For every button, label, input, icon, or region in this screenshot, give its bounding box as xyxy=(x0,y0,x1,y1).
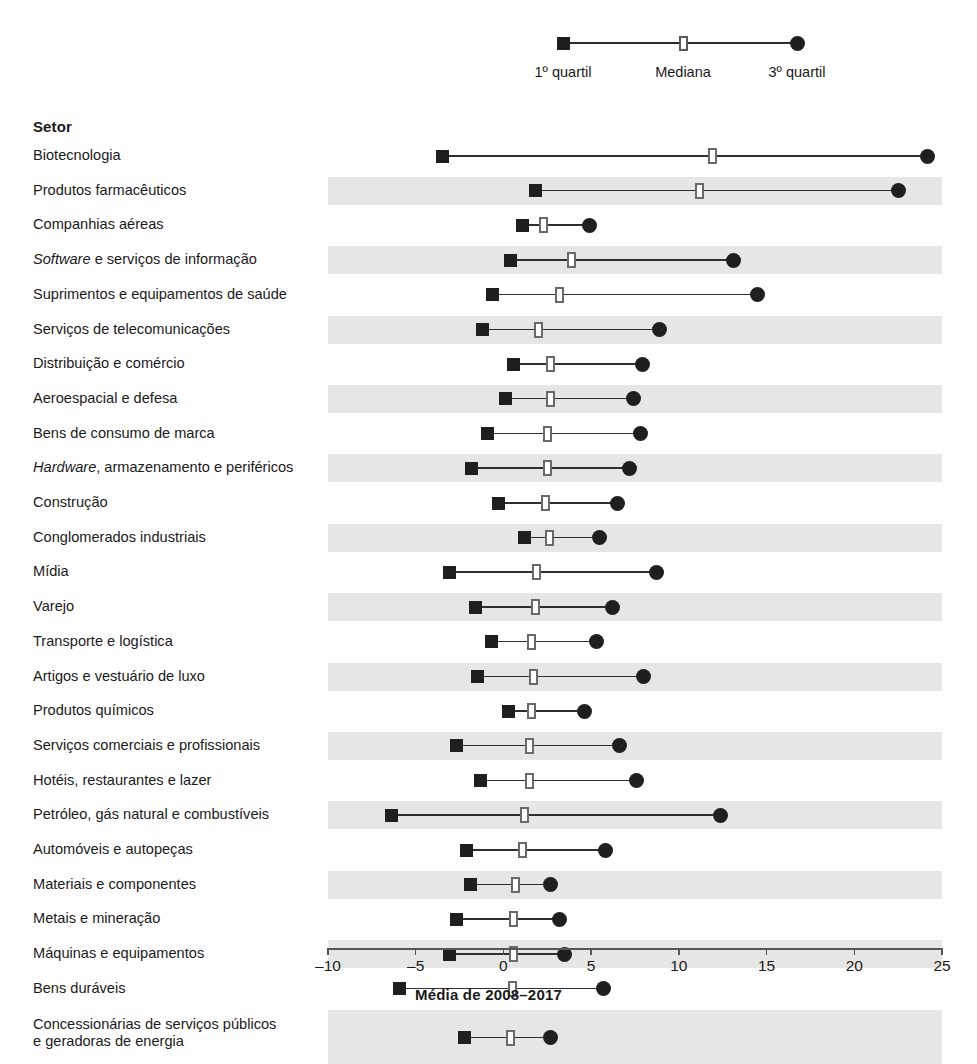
median-marker xyxy=(511,877,520,893)
chart-row: Hotéis, restaurantes e lazer xyxy=(0,767,977,802)
row-whisker-line xyxy=(498,502,617,504)
row-label: Construção xyxy=(33,494,108,511)
median-marker xyxy=(708,148,717,164)
row-label: Hardware, armazenamento e periféricos xyxy=(33,459,293,476)
chart-plot-area: Setor BiotecnologiaProdutos farmacêutico… xyxy=(0,104,977,964)
chart-row: Automóveis e autopeças xyxy=(0,836,977,871)
median-marker xyxy=(539,217,548,233)
first-quartile-marker xyxy=(436,150,449,163)
chart-row: Metais e mineração xyxy=(0,905,977,940)
row-whisker-line xyxy=(488,433,641,435)
chart-row: Serviços comerciais e profissionais xyxy=(0,732,977,767)
median-marker xyxy=(695,183,704,199)
chart-row: Software e serviços de informação xyxy=(0,246,977,281)
median-marker xyxy=(529,669,538,685)
row-whisker-line xyxy=(535,190,898,192)
row-label: Serviços comerciais e profissionais xyxy=(33,737,260,754)
axis-line xyxy=(328,948,942,950)
chart-row: Materiais e componentes xyxy=(0,871,977,906)
median-marker xyxy=(532,564,541,580)
first-quartile-marker xyxy=(450,739,463,752)
median-marker xyxy=(525,738,534,754)
median-marker xyxy=(541,495,550,511)
row-label: Aeroespacial e defesa xyxy=(33,390,177,407)
axis-tick xyxy=(941,948,943,955)
median-marker xyxy=(534,322,543,338)
row-label: Petróleo, gás natural e combustíveis xyxy=(33,806,269,823)
first-quartile-marker xyxy=(502,705,515,718)
axis-tick xyxy=(503,948,505,955)
row-label: Bens de consumo de marca xyxy=(33,425,215,442)
axis-tick xyxy=(327,948,329,955)
third-quartile-marker xyxy=(635,357,650,372)
sector-column-header: Setor xyxy=(33,118,72,135)
chart-row: Produtos farmacêuticos xyxy=(0,177,977,212)
row-whisker-line xyxy=(523,224,590,226)
chart-row: Companhias aéreas xyxy=(0,211,977,246)
chart-row: Artigos e vestuário de luxo xyxy=(0,663,977,698)
first-quartile-marker xyxy=(486,288,499,301)
third-quartile-marker xyxy=(552,912,567,927)
axis-tick-label: 10 xyxy=(649,957,709,975)
median-marker xyxy=(567,252,576,268)
chart-row: Aeroespacial e defesa xyxy=(0,385,977,420)
row-whisker-line xyxy=(467,849,606,851)
third-quartile-marker xyxy=(629,773,644,788)
axis-tick-label: 25 xyxy=(912,957,972,975)
median-marker xyxy=(525,773,534,789)
chart-row: Petróleo, gás natural e combustíveis xyxy=(0,801,977,836)
third-quartile-marker xyxy=(920,149,935,164)
third-quartile-marker xyxy=(622,461,637,476)
first-quartile-marker xyxy=(443,566,456,579)
first-quartile-marker xyxy=(481,427,494,440)
median-marker xyxy=(545,530,554,546)
first-quartile-marker xyxy=(385,809,398,822)
third-quartile-marker xyxy=(649,565,664,580)
axis-tick-label: 15 xyxy=(737,957,797,975)
axis-tick xyxy=(415,948,417,955)
chart-row: Construção xyxy=(0,489,977,524)
chart-row: Serviços de telecomunicações xyxy=(0,316,977,351)
row-whisker-line xyxy=(514,363,642,365)
row-whisker-line xyxy=(449,571,656,573)
axis-tick xyxy=(766,948,768,955)
axis-tick-label: 20 xyxy=(824,957,884,975)
chart-row: Varejo xyxy=(0,593,977,628)
row-whisker-line xyxy=(391,814,721,816)
row-whisker-line xyxy=(456,918,560,920)
row-label: Serviços de telecomunicações xyxy=(33,321,230,338)
median-marker xyxy=(531,599,540,615)
row-whisker-line xyxy=(442,155,928,157)
axis-tick-label: 0 xyxy=(473,957,533,975)
chart-row: Biotecnologia xyxy=(0,142,977,177)
row-whisker-line xyxy=(482,329,659,331)
chart-row: Bens de consumo de marca xyxy=(0,420,977,455)
third-quartile-marker xyxy=(577,704,592,719)
row-label: Produtos farmacêuticos xyxy=(33,182,186,199)
median-marker xyxy=(546,356,555,372)
row-background-band xyxy=(328,593,942,621)
chart-row: Produtos químicos xyxy=(0,697,977,732)
chart-row: Suprimentos e equipamentos de saúde xyxy=(0,281,977,316)
row-background-band xyxy=(328,524,942,552)
chart-row: Hardware, armazenamento e periféricos xyxy=(0,454,977,489)
row-whisker-line xyxy=(493,294,758,296)
median-marker xyxy=(509,911,518,927)
row-whisker-line xyxy=(456,745,619,747)
axis-title: Média de 2008–2017 xyxy=(0,986,977,1003)
first-quartile-marker xyxy=(465,462,478,475)
legend: 1º quartilMediana3º quartil xyxy=(0,0,977,100)
legend-third-quartile-circle-icon xyxy=(790,36,805,51)
first-quartile-marker xyxy=(507,358,520,371)
third-quartile-marker xyxy=(610,496,625,511)
x-axis: –10–50510152025 Média de 2008–2017 xyxy=(0,948,977,1038)
median-marker xyxy=(546,391,555,407)
row-background-band xyxy=(328,732,942,760)
row-label: Suprimentos e equipamentos de saúde xyxy=(33,286,287,303)
legend-label-third-quartile: 3º quartil xyxy=(727,64,867,80)
row-label: Materiais e componentes xyxy=(33,876,196,893)
first-quartile-marker xyxy=(504,254,517,267)
first-quartile-marker xyxy=(492,497,505,510)
median-marker xyxy=(555,287,564,303)
third-quartile-marker xyxy=(589,634,604,649)
